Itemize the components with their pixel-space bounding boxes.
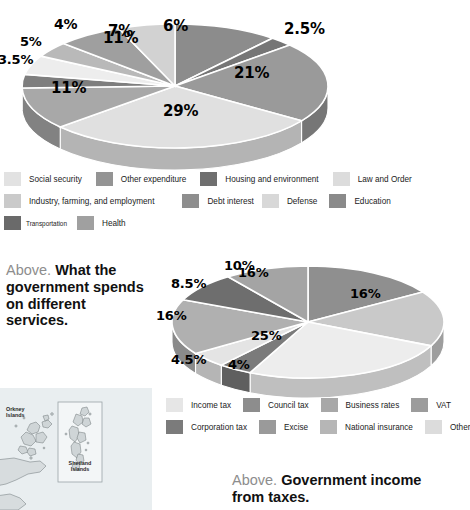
legend-label: Health: [102, 219, 126, 228]
legend-item[interactable]: National insurance: [320, 420, 413, 434]
legend-label: Housing and environment: [225, 175, 318, 184]
legend-item[interactable]: Transportation: [4, 216, 67, 230]
legend-label: Transportation: [26, 220, 67, 227]
legend-swatch: [77, 216, 94, 230]
orkney-label-line1: Orkney: [6, 406, 25, 412]
income-legend: Income taxCouncil taxBusiness ratesVATCo…: [166, 398, 452, 442]
legend-item[interactable]: Law and Order: [333, 172, 412, 186]
pie-slice-label: 16%: [156, 309, 187, 322]
pie-slice-label: 21%: [234, 66, 269, 81]
legend-label: VAT: [436, 401, 451, 410]
pie-slice-label: 29%: [163, 104, 198, 119]
legend-swatch: [182, 194, 199, 208]
legend-row: Social securityOther expenditureHousing …: [4, 172, 450, 186]
map-inset: Orkney Islands Shetland Islands: [0, 388, 152, 510]
pie-slice-label: 7%: [108, 24, 133, 39]
legend-item[interactable]: Excise: [259, 420, 308, 434]
legend-label: Corporation tax: [191, 423, 247, 432]
spending-caption-line3: on different: [6, 296, 86, 312]
legend-item[interactable]: VAT: [411, 398, 451, 412]
spending-caption-line1: What the: [55, 262, 116, 278]
shetland-label-line2: Islands: [71, 466, 90, 472]
pie-slice-label: 4.5%: [171, 353, 206, 366]
legend-label: Law and Order: [358, 175, 412, 184]
legend-swatch: [200, 172, 217, 186]
legend-swatch: [166, 420, 183, 434]
legend-swatch: [96, 172, 113, 186]
legend-label: Industry, farming, and employment: [29, 197, 154, 206]
spending-caption-line4: services.: [6, 312, 68, 328]
legend-label: Council tax: [268, 401, 309, 410]
pie-slice-label: 2.5%: [284, 22, 325, 37]
legend-item[interactable]: Council tax: [243, 398, 309, 412]
pie-slice-label: 5%: [20, 35, 42, 48]
legend-label: Business rates: [346, 401, 400, 410]
income-pie-chart: [166, 254, 450, 384]
legend-label: Social security: [29, 175, 82, 184]
pie-slice-label: 16%: [350, 287, 381, 300]
legend-swatch: [4, 172, 21, 186]
legend-label: Education: [354, 197, 390, 206]
legend-item[interactable]: Debt interest: [182, 194, 253, 208]
legend-swatch: [425, 420, 442, 434]
orkney-label-line2: Islands: [6, 412, 25, 418]
legend-swatch: [243, 398, 260, 412]
legend-swatch: [320, 420, 337, 434]
legend-label: National insurance: [345, 423, 413, 432]
legend-row: TransportationHealth: [4, 216, 450, 230]
legend-swatch: [321, 398, 338, 412]
pie-slice-label: 8.5%: [171, 277, 206, 290]
legend-swatch: [329, 194, 346, 208]
legend-row: Corporation taxExciseNational insuranceO…: [166, 420, 452, 434]
legend-item[interactable]: Health: [77, 216, 126, 230]
pie-slice-label: 4%: [228, 358, 250, 371]
income-caption-above: Above.: [232, 472, 277, 488]
legend-item[interactable]: Housing and environment: [200, 172, 318, 186]
legend-item[interactable]: Social security: [4, 172, 82, 186]
legend-swatch: [166, 398, 183, 412]
legend-item[interactable]: Business rates: [321, 398, 400, 412]
spending-caption-line2: government spends: [6, 279, 144, 295]
pie-slice-label: 4%: [54, 17, 77, 31]
legend-item[interactable]: Industry, farming, and employment: [4, 194, 154, 208]
legend-label: Excise: [284, 423, 308, 432]
pie-slice-label: 11%: [51, 81, 86, 96]
income-pie-svg: [166, 254, 450, 384]
legend-item[interactable]: Income tax: [166, 398, 231, 412]
income-caption: Above. Government income from taxes.: [232, 472, 452, 506]
spending-caption: Above. What the government spends on dif…: [6, 262, 166, 329]
shetland-islands-label: Shetland Islands: [62, 460, 98, 472]
legend-swatch: [411, 398, 428, 412]
legend-row: Income taxCouncil taxBusiness ratesVAT: [166, 398, 452, 412]
spending-legend: Social securityOther expenditureHousing …: [4, 172, 450, 238]
income-caption-line2: from taxes.: [232, 489, 309, 505]
pie-slice-label: 10%: [224, 259, 255, 272]
orkney-islands-label: Orkney Islands: [6, 406, 25, 418]
legend-swatch: [333, 172, 350, 186]
legend-label: Income tax: [191, 401, 231, 410]
pie-slice-label: 6%: [163, 19, 188, 34]
legend-label: Debt interest: [207, 197, 253, 206]
legend-item[interactable]: Other expenditure: [96, 172, 187, 186]
income-caption-line1: Government income: [281, 472, 421, 488]
legend-item[interactable]: Other: [425, 420, 470, 434]
pie-slice-label: 25%: [251, 329, 282, 342]
spending-caption-above: Above.: [6, 262, 51, 278]
legend-swatch: [262, 194, 279, 208]
legend-swatch: [4, 194, 21, 208]
legend-item[interactable]: Education: [329, 194, 390, 208]
legend-item[interactable]: Corporation tax: [166, 420, 247, 434]
pie-top-faces: [172, 266, 444, 378]
legend-item[interactable]: Defense: [262, 194, 318, 208]
shetland-label-line1: Shetland: [69, 460, 92, 466]
legend-swatch: [4, 216, 21, 230]
legend-row: Industry, farming, and employmentDebt in…: [4, 194, 450, 208]
legend-swatch: [259, 420, 276, 434]
legend-label: Defense: [287, 197, 318, 206]
legend-label: Other expenditure: [121, 175, 187, 184]
legend-label: Other: [450, 423, 470, 432]
pie-slice-label: 3.5%: [0, 53, 33, 66]
